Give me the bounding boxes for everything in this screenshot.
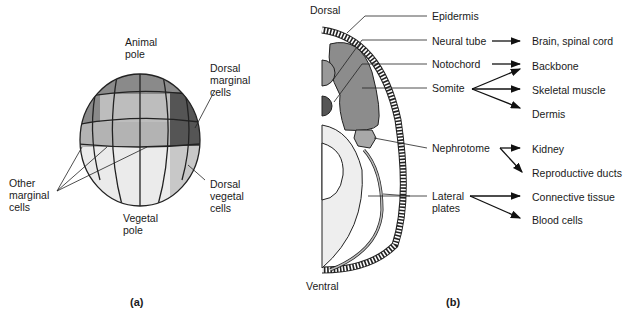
label-line: Animal [125, 36, 157, 48]
label-neural-tube: Neural tube [432, 35, 486, 47]
label-line: marginal [210, 74, 250, 86]
label-line: plates [432, 202, 464, 214]
label-line: Dorsal [210, 178, 244, 190]
label-line: Other [9, 177, 49, 189]
caption-a: (a) [130, 296, 143, 308]
label-animal-pole: Animal pole [125, 36, 157, 60]
label-line: Dorsal [210, 62, 250, 74]
embryo-cross-section [322, 30, 403, 270]
label-line: marginal [9, 189, 49, 201]
label-somite: Somite [432, 82, 465, 94]
label-line: cells [210, 202, 244, 214]
label-vegetal-pole: Vegetal pole [123, 212, 158, 236]
label-dorsal-vegetal-cells: Dorsal vegetal cells [210, 178, 244, 214]
label-brain-spinal-cord: Brain, spinal cord [532, 35, 613, 47]
caption-b: (b) [446, 296, 460, 308]
label-dorsal: Dorsal [310, 4, 340, 16]
label-lateral-plates: Lateral plates [432, 190, 464, 214]
label-line: pole [125, 48, 157, 60]
label-kidney: Kidney [532, 143, 564, 155]
label-dermis: Dermis [532, 108, 565, 120]
blastula-embryo [70, 60, 210, 220]
label-line: pole [123, 224, 158, 236]
label-line: vegetal [210, 190, 244, 202]
label-skeletal-muscle: Skeletal muscle [532, 84, 606, 96]
label-nephrotome: Nephrotome [432, 142, 490, 154]
diagram-canvas [0, 0, 628, 321]
label-notochord: Notochord [432, 58, 480, 70]
label-epidermis: Epidermis [432, 10, 479, 22]
label-ventral: Ventral [306, 280, 339, 292]
label-line: cells [210, 86, 250, 98]
label-line: Vegetal [123, 212, 158, 224]
label-line: Lateral [432, 190, 464, 202]
label-line: cells [9, 201, 49, 213]
label-dorsal-marginal-cells: Dorsal marginal cells [210, 62, 250, 98]
label-connective-tissue: Connective tissue [532, 191, 615, 203]
label-blood-cells: Blood cells [532, 214, 583, 226]
label-reproductive-ducts: Reproductive ducts [532, 167, 622, 179]
label-other-marginal-cells: Other marginal cells [9, 177, 49, 213]
label-backbone: Backbone [532, 60, 579, 72]
